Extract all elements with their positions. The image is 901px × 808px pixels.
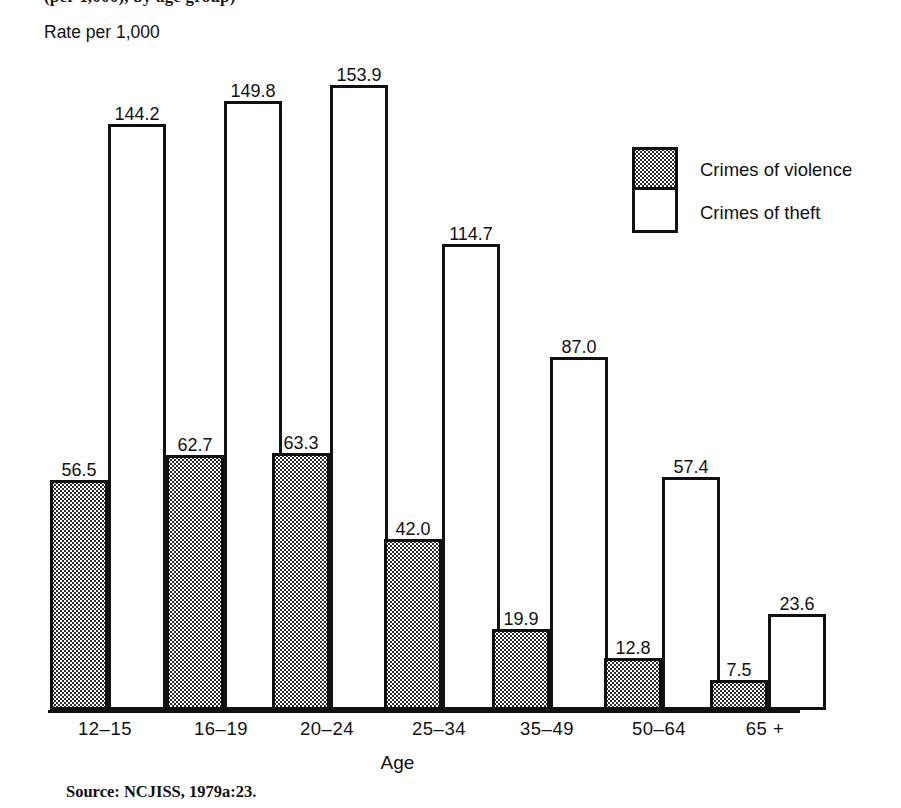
bar-violence-1619-value-label: 62.7 (177, 436, 212, 454)
source-note: Source: NCJISS, 1979a:23. (66, 782, 256, 802)
bar-chart-plot-area: 56.5144.262.7149.863.3153.942.0114.719.9… (0, 0, 901, 760)
bar-violence-65+-value-label: 7.5 (726, 661, 751, 679)
x-tick-label-1215: 12–15 (40, 718, 170, 740)
bar-theft-5064-value-label: 57.4 (673, 458, 708, 476)
bar-theft-2024: 153.9 (330, 85, 388, 710)
legend-swatch-violence (635, 150, 675, 190)
bar-violence-1619: 62.7 (166, 455, 224, 710)
legend-swatch-box (632, 147, 678, 233)
legend-swatch-theft (635, 190, 675, 230)
bar-violence-2534: 42.0 (384, 539, 442, 710)
x-tick-label-3549: 35–49 (482, 718, 612, 740)
bar-violence-5064-value-label: 12.8 (615, 639, 650, 657)
legend-label-theft: Crimes of theft (700, 202, 820, 224)
bar-theft-1215: 144.2 (108, 124, 166, 710)
chart-legend: Crimes of violence Crimes of theft (632, 147, 900, 239)
bar-theft-1619-value-label: 149.8 (230, 82, 275, 100)
bar-theft-2534-value-label: 114.7 (449, 225, 493, 243)
bar-theft-1215-value-label: 144.2 (114, 105, 159, 123)
bar-theft-2024-value-label: 153.9 (336, 66, 381, 84)
bar-violence-5064: 12.8 (604, 658, 662, 710)
x-axis-title: Age (0, 752, 901, 774)
bar-violence-65+: 7.5 (710, 680, 768, 710)
x-axis-title-text: Age (381, 752, 415, 774)
x-tick-label-2024: 20–24 (262, 718, 392, 740)
bar-violence-2024-value-label: 63.3 (283, 434, 318, 452)
bar-theft-3549-value-label: 87.0 (561, 338, 596, 356)
bar-theft-3549: 87.0 (550, 357, 608, 710)
x-tick-label-65+: 65 + (700, 718, 830, 740)
bar-theft-65+: 23.6 (768, 614, 826, 710)
bar-violence-1215-value-label: 56.5 (61, 461, 96, 479)
x-axis-baseline (48, 710, 800, 713)
bar-violence-3549-value-label: 19.9 (503, 610, 538, 628)
bar-violence-3549: 19.9 (492, 629, 550, 710)
bar-theft-5064: 57.4 (662, 477, 720, 710)
bar-violence-2024: 63.3 (272, 453, 330, 710)
bar-violence-2534-value-label: 42.0 (395, 520, 430, 538)
bar-theft-65+-value-label: 23.6 (779, 595, 814, 613)
bar-violence-1215: 56.5 (50, 480, 108, 710)
legend-label-violence: Crimes of violence (700, 159, 852, 181)
